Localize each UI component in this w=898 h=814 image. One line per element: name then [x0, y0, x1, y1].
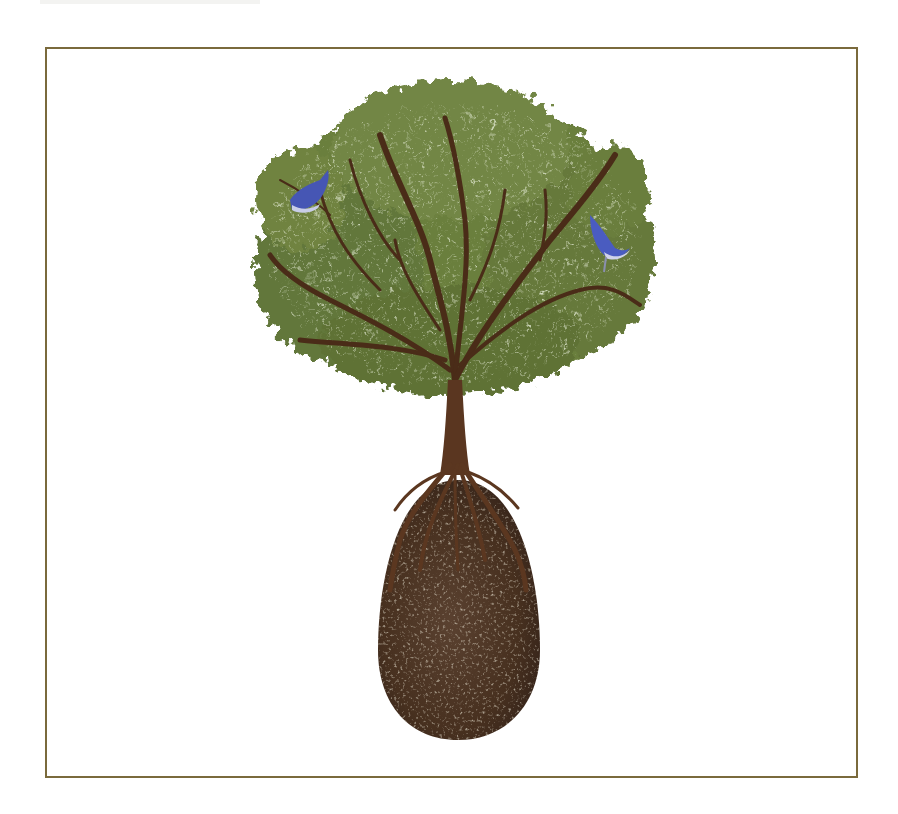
soil-pod: [378, 480, 540, 740]
tree-illustration: [0, 0, 898, 814]
